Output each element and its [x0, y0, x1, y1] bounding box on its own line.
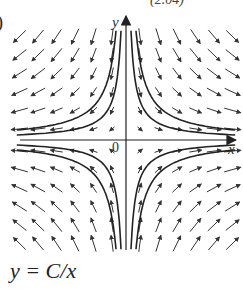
slope-arrow [137, 149, 142, 153]
top-partial-text: (2.04) [150, 0, 184, 8]
slope-arrow [12, 88, 27, 95]
equation-caption: y = C/x [10, 258, 76, 284]
slope-arrow [156, 48, 161, 62]
slope-arrow [207, 184, 221, 192]
slope-arrow [207, 88, 221, 96]
slope-arrow [173, 218, 181, 232]
slope-arrow [90, 128, 98, 131]
slope-arrow [51, 88, 63, 96]
direction-field-plot [0, 0, 243, 260]
slope-arrow [139, 235, 141, 251]
slope-arrow [208, 30, 219, 43]
origin-label: 0 [112, 140, 119, 156]
slope-arrow [12, 185, 27, 192]
slope-arrow [51, 219, 62, 232]
slope-arrow [33, 30, 44, 43]
slope-arrow [225, 69, 239, 78]
slope-arrow [13, 50, 26, 61]
slope-arrow [224, 108, 240, 113]
slope-arrow [110, 107, 113, 114]
solution-curve [131, 31, 235, 135]
slope-arrow [14, 238, 26, 250]
slope-arrow [156, 28, 161, 44]
slope-arrow [51, 184, 63, 192]
slope-arrow [190, 48, 201, 61]
slope-arrow [155, 150, 163, 153]
slope-arrow [91, 236, 96, 252]
slope-arrow [189, 150, 201, 152]
slope-arrow [156, 218, 161, 232]
slope-arrow [155, 184, 161, 193]
slope-arrow [31, 88, 45, 96]
slope-arrow [172, 167, 182, 173]
slope-arrow [226, 50, 239, 61]
slope-arrow [71, 88, 80, 96]
slope-arrow [190, 68, 201, 79]
slope-arrow [138, 107, 141, 114]
slope-arrow [51, 68, 62, 79]
slope-arrow [70, 167, 80, 173]
slope-arrow [137, 127, 142, 131]
slope-arrow [207, 108, 221, 113]
slope-arrow [31, 167, 45, 172]
slope-arrow [139, 28, 141, 44]
slope-arrow [91, 218, 96, 232]
slope-arrow [111, 235, 113, 251]
solution-curve [136, 150, 235, 249]
slope-arrow [13, 220, 26, 231]
slope-arrow [51, 128, 63, 130]
slope-arrow [172, 108, 182, 114]
slope-arrow [51, 150, 63, 152]
slope-arrow [52, 237, 61, 251]
slope-arrow [156, 201, 162, 213]
slope-arrow [91, 68, 97, 80]
slope-arrow [110, 127, 115, 131]
slope-arrow [32, 49, 44, 61]
slope-arrow [225, 185, 240, 192]
slope-arrow [91, 184, 97, 193]
slope-arrow [31, 201, 45, 211]
slope-arrow [156, 68, 162, 80]
slope-arrow [173, 236, 180, 251]
slope-arrow [207, 201, 221, 211]
slope-arrow [225, 202, 239, 211]
slope-arrow [155, 87, 161, 96]
slope-arrow [71, 218, 79, 232]
slope-arrow [173, 48, 181, 62]
slope-arrow [226, 30, 238, 42]
slope-arrow [32, 219, 44, 231]
slope-arrow [71, 184, 80, 192]
slope-arrow [208, 237, 219, 250]
slope-arrow [226, 220, 239, 231]
slope-arrow [51, 167, 63, 172]
slope-arrow [224, 167, 240, 172]
solution-curve [17, 150, 116, 249]
slope-arrow [11, 167, 27, 172]
slope-arrow [190, 88, 202, 96]
slope-arrow [155, 128, 163, 131]
slope-arrow [91, 201, 97, 213]
slope-arrow [11, 108, 27, 113]
slope-arrow [33, 237, 44, 250]
slope-arrow [207, 68, 221, 78]
slope-arrow [31, 108, 45, 113]
slope-arrow [70, 108, 80, 114]
slope-arrow [138, 166, 141, 173]
solution-curve [17, 31, 121, 135]
slope-arrow [226, 238, 238, 250]
part-label: ) [0, 12, 3, 33]
slope-arrow [173, 68, 181, 79]
slope-arrow [189, 108, 201, 113]
slope-arrow [51, 48, 62, 61]
solution-curve [131, 145, 235, 249]
slope-arrow [207, 167, 221, 172]
slope-arrow [51, 108, 63, 113]
slope-arrow [91, 87, 97, 96]
slope-arrow [173, 201, 181, 212]
slope-arrow [156, 236, 161, 252]
direction-field-figure: (2.04) ) y x 0 [0, 0, 243, 260]
slope-arrow [31, 184, 45, 192]
slope-arrow [91, 48, 96, 62]
slope-arrow [14, 30, 26, 42]
x-axis-label: x [228, 141, 235, 158]
